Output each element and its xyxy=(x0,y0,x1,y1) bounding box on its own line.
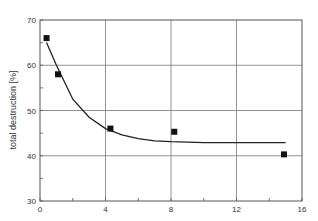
y-tick-label: 60 xyxy=(27,61,36,70)
data-point xyxy=(44,35,50,41)
fit-curve xyxy=(47,43,286,143)
x-tick-labels: 0481216 xyxy=(38,205,307,214)
y-tick-label: 40 xyxy=(27,152,36,161)
data-point xyxy=(55,71,61,77)
chart: 0481216 3040506070 total destruction [%] xyxy=(0,0,318,221)
data-points xyxy=(44,35,287,157)
y-axis-label: total destruction [%] xyxy=(8,70,18,149)
x-tick-label: 16 xyxy=(298,205,307,214)
y-tick-label: 30 xyxy=(27,197,36,206)
y-tick-label: 70 xyxy=(27,16,36,25)
x-tick-label: 0 xyxy=(38,205,43,214)
x-tick-label: 8 xyxy=(169,205,174,214)
grid-lines xyxy=(40,20,302,201)
y-tick-labels: 3040506070 xyxy=(27,16,36,206)
data-point xyxy=(107,126,113,132)
data-point xyxy=(171,129,177,135)
y-tick-label: 50 xyxy=(27,107,36,116)
x-tick-label: 4 xyxy=(103,205,108,214)
data-point xyxy=(281,151,287,157)
x-tick-label: 12 xyxy=(232,205,241,214)
